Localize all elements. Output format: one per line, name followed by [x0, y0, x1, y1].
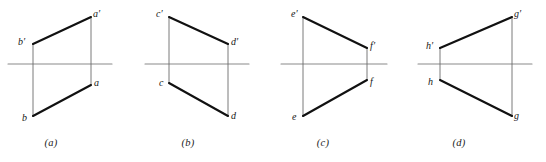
top-view-segment-d [440, 80, 512, 116]
panel-caption-d: (d) [439, 137, 479, 148]
vertex-label-h: h [428, 76, 433, 87]
panel-caption-c: (c) [303, 137, 343, 148]
figure-geometry [8, 17, 532, 116]
vertex-label-h-prime: h′ [426, 40, 433, 51]
top-view-segment-b [169, 83, 228, 116]
panel-caption-a: (a) [31, 137, 71, 148]
vertex-label-b-prime: b′ [18, 36, 25, 47]
front-view-segment-b [169, 17, 228, 44]
vertex-label-c-prime: c′ [156, 8, 163, 19]
vertex-label-f: f [370, 76, 373, 87]
vertex-label-d-prime: d′ [231, 36, 238, 47]
vertex-label-g-prime: g′ [514, 8, 521, 19]
vertex-label-g: g [514, 110, 519, 121]
vertex-label-e: e [292, 111, 297, 122]
front-view-segment-d [440, 17, 512, 48]
front-view-segment-a [33, 17, 91, 44]
vertex-label-b: b [22, 112, 27, 123]
vertex-label-a: a [94, 77, 99, 88]
figure-root: a′b′ab(a)c′d′cd(b)e′f′fe(c)g′h′hg(d) [0, 0, 546, 162]
vertex-label-d: d [231, 110, 236, 121]
vertex-label-f-prime: f′ [370, 40, 375, 51]
front-view-segment-c [303, 17, 367, 48]
panel-caption-b: (b) [168, 137, 208, 148]
vertex-label-a-prime: a′ [93, 8, 100, 19]
top-view-segment-a [33, 85, 91, 116]
vertex-label-e-prime: e′ [291, 8, 298, 19]
top-view-segment-c [303, 80, 367, 116]
vertex-label-c: c [159, 77, 164, 88]
